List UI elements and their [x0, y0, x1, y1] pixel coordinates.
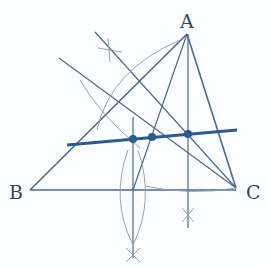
geometry-canvas — [0, 0, 268, 268]
orthocenter-point — [129, 135, 137, 143]
arc-3 — [120, 150, 133, 245]
vertex-label-c: C — [246, 183, 261, 202]
arc-4 — [133, 150, 145, 245]
circumcenter-point — [184, 130, 192, 138]
median-from-a — [133, 34, 187, 190]
construction-lines — [59, 32, 236, 258]
vertex-label-a: A — [180, 12, 194, 31]
vertex-label-b: B — [9, 183, 23, 202]
side-ac — [187, 34, 236, 188]
centroid-point — [148, 133, 156, 141]
compass-arcs — [80, 38, 236, 262]
euler-line-diagram: A B C — [0, 0, 268, 268]
side-ab — [30, 34, 187, 190]
line-through-c-2 — [59, 58, 236, 188]
